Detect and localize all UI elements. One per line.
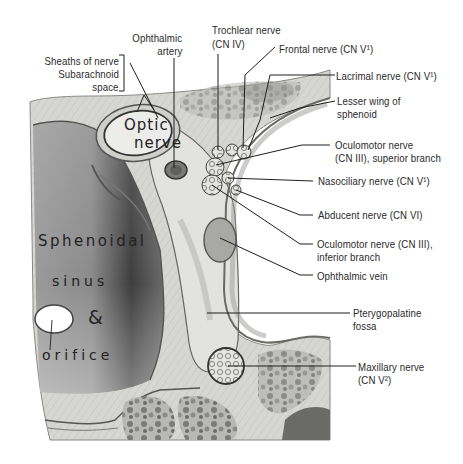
- label-trochlear-line1: Trochlear nerve: [212, 24, 281, 37]
- label-oculomotor-superior-line1: Oculomotor nerve: [335, 139, 413, 152]
- label-sheaths-line2: Subarachnoid: [58, 68, 119, 81]
- label-abducent: Abducent nerve (CN VI): [318, 209, 423, 222]
- sinus-orifice: [35, 305, 73, 333]
- label-trochlear-line2: (CN IV): [212, 38, 245, 51]
- ampersand-label: &: [88, 306, 106, 328]
- label-sheaths-line3: space: [93, 81, 119, 94]
- label-oculomotor-inferior-line1: Oculomotor nerve (CN III),: [317, 238, 433, 251]
- oculomotor-superior-bundle: [206, 158, 224, 176]
- ophthalmic-vein: [204, 218, 236, 262]
- label-lesser-wing-line2: sphenoid: [337, 108, 377, 121]
- label-maxillary-line2: (CN V²): [358, 374, 391, 387]
- label-pterygopalatine-line1: Pterygopalatine: [353, 307, 422, 320]
- sphenoidal-label: Sphenoidal: [38, 232, 147, 250]
- orifice-label: orifice: [42, 347, 113, 363]
- label-oculomotor-inferior-line2: inferior branch: [317, 251, 380, 264]
- label-lacrimal: Lacrimal nerve (CN V¹): [336, 70, 437, 83]
- label-nasociliary: Nasociliary nerve (CN V¹): [318, 175, 430, 188]
- label-pterygopalatine-line2: fossa: [353, 320, 377, 333]
- optic-nerve-label-line2: nerve: [134, 134, 182, 152]
- label-ophthalmic-artery-line1: Ophthalmic: [132, 32, 182, 45]
- optic-nerve-label-line1: Optic: [124, 116, 169, 134]
- sinus-label: sinus: [52, 273, 108, 289]
- label-ophthalmic-artery-line2: artery: [157, 45, 182, 58]
- label-maxillary-line1: Maxillary nerve: [358, 361, 424, 374]
- label-lesser-wing-line1: Lesser wing of: [337, 95, 401, 108]
- label-oculomotor-superior-line2: (CN III), superior branch: [335, 152, 441, 165]
- frontal-nerve-bundle: [226, 144, 238, 156]
- label-frontal: Frontal nerve (CN V¹): [279, 43, 373, 56]
- label-ophthalmic-vein: Ophthalmic vein: [317, 270, 388, 283]
- label-sheaths-line1: Sheaths of nerve: [44, 55, 119, 68]
